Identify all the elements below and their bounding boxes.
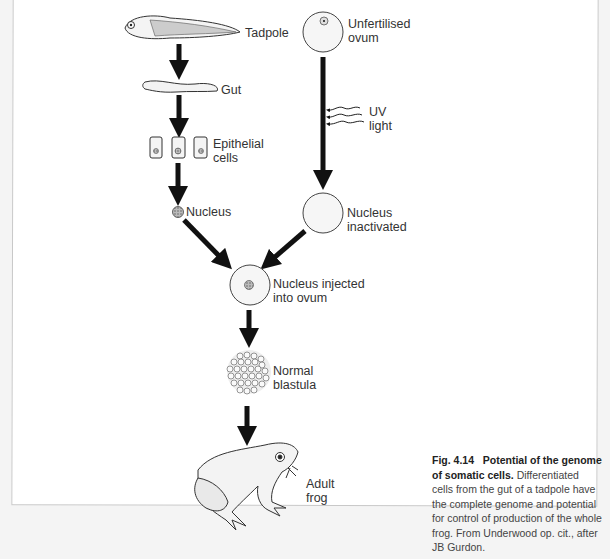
caption-fig-number: Fig. 4.14 xyxy=(432,454,474,466)
label-nucleus-injected: Nucleus injected into ovum xyxy=(273,277,365,305)
label-adult-frog: Adult frog xyxy=(306,477,335,505)
injected-ovum-icon xyxy=(230,265,270,305)
gut-icon xyxy=(143,81,218,92)
caption-text: Differentiated cells from the gut of a t… xyxy=(432,469,602,554)
nucleus-icon xyxy=(173,207,184,218)
inactivated-ovum-icon xyxy=(303,193,343,233)
label-tadpole: Tadpole xyxy=(245,26,289,40)
label-normal-blastula: Normal blastula xyxy=(273,364,316,392)
label-nucleus: Nucleus xyxy=(186,205,231,219)
blastula-icon xyxy=(227,350,271,394)
label-gut: Gut xyxy=(221,83,241,97)
unfertilised-ovum-icon xyxy=(303,12,343,52)
tadpole-icon xyxy=(125,16,240,39)
label-epithelial-cells: Epithelial cells xyxy=(213,137,264,165)
label-unfertilised-ovum: Unfertilised ovum xyxy=(348,17,411,45)
figure-caption: Fig. 4.14 Potential of the genome of som… xyxy=(432,453,602,555)
epithelial-cells-icon xyxy=(150,137,207,158)
label-nucleus-inactivated: Nucleus inactivated xyxy=(347,206,407,234)
adult-frog-icon xyxy=(195,443,298,530)
uv-light-waves-icon xyxy=(328,107,364,124)
label-uv-light: UV light xyxy=(369,105,392,133)
